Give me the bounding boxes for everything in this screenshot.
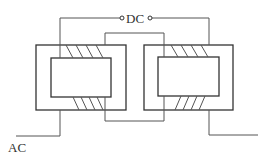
schematic-diagram: DC AC [0, 0, 274, 160]
dc-terminal-left[interactable] [120, 16, 124, 20]
ac-wire-right [209, 110, 258, 135]
left-top-coil [66, 45, 103, 58]
dc-wire-right [152, 18, 209, 45]
bottom-connector [105, 96, 164, 121]
right-top-coil [171, 45, 208, 57]
right-core-inner [158, 57, 219, 96]
dc-label: DC [126, 11, 144, 26]
left-bottom-coil [73, 97, 103, 110]
left-core-inner [51, 58, 111, 97]
ac-wire-left [16, 110, 60, 136]
dc-terminal-right[interactable] [148, 16, 152, 20]
dc-wire-left [60, 18, 120, 45]
right-bottom-coil [175, 96, 205, 110]
ac-label: AC [8, 140, 26, 155]
top-connector [105, 33, 164, 45]
